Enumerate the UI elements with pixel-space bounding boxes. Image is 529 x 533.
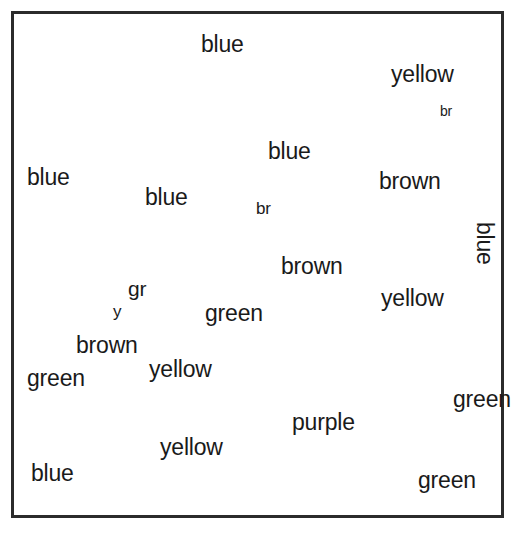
color-label-ball-core: y bbox=[113, 303, 121, 320]
color-label-leg-upper: yellow bbox=[149, 358, 212, 381]
color-label-sky-right: blue bbox=[473, 222, 496, 265]
color-label-sky-top: blue bbox=[201, 33, 244, 56]
color-label-ball-outer: brown bbox=[76, 334, 138, 357]
color-label-arm: yellow bbox=[381, 287, 444, 310]
color-label-sky-mid: blue bbox=[145, 186, 188, 209]
color-label-hat: yellow bbox=[391, 63, 454, 86]
color-label-sky-head: blue bbox=[268, 140, 311, 163]
color-label-bush-mid: green bbox=[205, 302, 263, 325]
coloring-page: blueyellowbrbluebrownbluebluebrbluebrown… bbox=[0, 0, 529, 533]
color-label-ball-inner: gr bbox=[128, 278, 146, 299]
page-border bbox=[11, 11, 504, 518]
color-label-sky-left: blue bbox=[27, 166, 70, 189]
color-label-face: brown bbox=[379, 170, 441, 193]
color-label-flute: br bbox=[256, 200, 271, 217]
color-label-grass-left: green bbox=[27, 367, 85, 390]
color-label-grass-right: green bbox=[453, 388, 511, 411]
color-label-paw-upper: brown bbox=[281, 255, 343, 278]
color-label-belly: purple bbox=[292, 411, 355, 434]
color-label-water: blue bbox=[31, 462, 74, 485]
color-label-ear: br bbox=[440, 104, 452, 118]
color-label-leg-lower: yellow bbox=[160, 436, 223, 459]
color-label-grass-bottom: green bbox=[418, 469, 476, 492]
